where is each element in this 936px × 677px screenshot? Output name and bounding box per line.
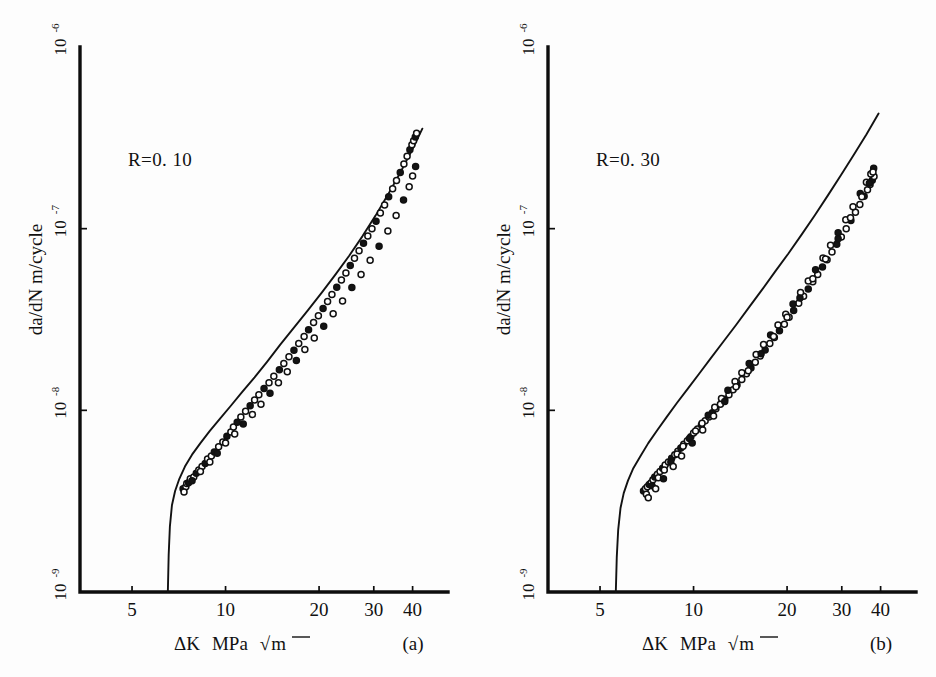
data-point-group [180,130,419,495]
data-point [866,180,872,186]
data-point [377,210,383,216]
data-point [266,380,272,386]
data-point [256,392,262,398]
data-point [859,194,865,200]
data-point [315,313,321,319]
data-point [296,341,302,347]
data-point [397,169,403,175]
data-point [404,153,410,159]
y-tick-exponent: -8 [517,386,529,396]
data-point [393,213,399,219]
y-tick-exponent: -6 [49,23,61,33]
y-tick-mantissa: 10 [519,402,538,419]
data-point [311,335,317,341]
data-point [775,322,781,328]
data-point [401,197,407,203]
panel-tag: (b) [870,633,892,655]
data-point [338,277,344,283]
data-point [406,184,412,190]
x-axis-title: ΔKMPa√m [642,633,778,654]
data-point [382,202,388,208]
y-tick-label--7: 10-7 [49,205,70,238]
x-axis-title-text: ΔKMPa√m [174,633,286,654]
data-point [401,161,407,167]
data-point [267,390,273,396]
data-point [311,320,317,326]
data-point [689,440,695,446]
data-point [367,257,373,263]
data-point [739,376,745,382]
data-point [410,173,416,179]
data-point [301,333,307,339]
data-point [197,469,203,475]
y-axis-title: da/dN m/cycle [25,224,46,335]
data-point [645,495,651,501]
data-point [835,230,841,236]
axis-spine [548,47,916,592]
x-axis-symbol: ΔK [174,633,200,654]
data-point [776,328,782,334]
y-tick-label--8: 10-8 [49,386,70,419]
y-tick-label--9: 10-9 [517,568,538,601]
data-point [361,240,367,246]
x-tick-label-5: 5 [595,599,605,620]
data-point [828,242,834,248]
data-point [829,249,835,255]
data-point [365,233,371,239]
x-axis-symbol: ΔK [642,633,668,654]
data-point [358,271,364,277]
r-ratio-annotation: R=0. 30 [596,149,660,170]
data-point [223,440,229,446]
data-point [369,226,375,232]
y-tick-exponent: -9 [49,568,61,578]
data-point [805,286,811,292]
data-point [823,256,829,262]
data-point [207,459,213,465]
y-tick-label--9: 10-9 [49,568,70,601]
y-axis-title: da/dN m/cycle [493,224,514,335]
y-tick-mantissa: 10 [51,402,70,419]
x-tick-label-20: 20 [310,599,329,620]
data-point [693,428,699,434]
data-point [745,368,751,374]
data-point [325,299,331,305]
y-tick-mantissa: 10 [51,584,70,601]
data-point [670,464,676,470]
x-tick-label-40: 40 [871,599,890,620]
data-point [232,431,238,437]
data-point [189,478,195,484]
data-point [781,321,787,327]
plot-svg-b: 51020304010-910-810-710-6da/dN m/cycleΔK… [468,0,936,677]
data-point [813,267,819,273]
data-point [722,398,728,404]
data-point [746,361,752,367]
data-point [752,359,758,365]
y-tick-exponent: -8 [49,386,61,396]
data-point [351,255,357,261]
y-tick-exponent: -7 [49,205,61,215]
data-point [660,476,666,482]
data-point [390,186,396,192]
data-point [870,169,876,175]
data-point [712,404,718,410]
data-point [784,314,790,320]
data-point [790,301,796,307]
y-tick-mantissa: 10 [519,39,538,56]
data-point [850,204,856,210]
y-tick-label--6: 10-6 [49,23,70,56]
data-point [767,341,773,347]
data-point [414,130,420,136]
y-tick-mantissa: 10 [519,220,538,237]
data-point [247,403,253,409]
axis-spine [80,47,448,592]
data-point [306,327,312,333]
x-tick-label-20: 20 [778,599,797,620]
data-point [347,263,353,269]
data-point [725,387,731,393]
data-point [413,163,419,169]
y-tick-mantissa: 10 [519,584,538,601]
data-point [653,486,659,492]
x-axis-radicand: m [271,633,286,654]
chart-panel-a: 51020304010-910-810-710-6da/dN m/cycleΔK… [0,0,468,677]
data-point [791,308,797,314]
